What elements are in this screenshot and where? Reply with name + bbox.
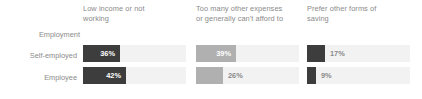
- row-label-employee: Employee: [0, 73, 77, 83]
- bar-value-label: 39%: [196, 45, 231, 62]
- column-header-1: Low income or notworking: [83, 4, 183, 24]
- bar-row: 42%: [83, 67, 186, 84]
- row-label-self-employed: Self-employed: [0, 51, 77, 61]
- bar-value-label: 17%: [330, 45, 345, 62]
- bar-value-label: 9%: [321, 67, 332, 84]
- bar-row: 39%: [196, 45, 299, 62]
- column-header-1-line1: Low income or not: [83, 4, 145, 13]
- column-header-2-line2: or generally can't afford to: [196, 14, 283, 23]
- column-header-2: Too many other expensesor generally can'…: [196, 4, 304, 24]
- small-multiples-bar-chart: Low income or notworking Too many other …: [0, 0, 422, 99]
- bar-row: 36%: [83, 45, 186, 62]
- bar-row: 9%: [307, 67, 410, 84]
- bar-row: 17%: [307, 45, 410, 62]
- column-header-3-line1: Prefer other forms of: [307, 4, 376, 13]
- column-header-1-line2: working: [83, 14, 109, 23]
- panel-low-income: 36% 42%: [83, 44, 186, 92]
- bar-value-label: 36%: [83, 45, 115, 62]
- bar-value-label: 42%: [83, 67, 121, 84]
- column-header-3: Prefer other forms ofsaving: [307, 4, 419, 24]
- bar-fill[interactable]: [196, 67, 223, 84]
- panel-prefer-other-saving: 17% 9%: [307, 44, 410, 92]
- axis-group-label: Employment: [0, 30, 80, 40]
- bar-value-label: 26%: [228, 67, 243, 84]
- bar-fill[interactable]: [307, 45, 325, 62]
- column-header-2-line1: Too many other expenses: [196, 4, 282, 13]
- column-header-3-line2: saving: [307, 14, 329, 23]
- panel-too-many-expenses: 39% 26%: [196, 44, 299, 92]
- bar-row: 26%: [196, 67, 299, 84]
- bar-fill[interactable]: [307, 67, 316, 84]
